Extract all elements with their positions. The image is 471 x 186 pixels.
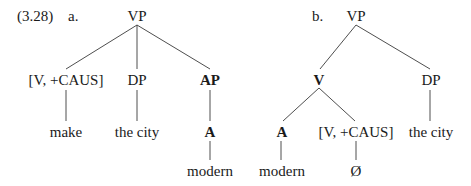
edge-a-vp-ap — [137, 25, 210, 69]
tree-a-node-ap: AP — [200, 73, 220, 88]
tree-a-node-v-caus: [V, +CAUS] — [29, 73, 104, 88]
tree-b-node-v-caus: [V, +CAUS] — [319, 125, 394, 140]
tree-a-node-dp: DP — [127, 73, 146, 88]
tree-b-label: b. — [312, 9, 323, 24]
tree-b-node-dp: DP — [421, 73, 440, 88]
tree-a-leaf-make: make — [50, 125, 82, 140]
edge-b-vp-v — [320, 25, 356, 69]
tree-a-label: a. — [68, 9, 78, 24]
tree-edges — [0, 0, 471, 186]
edge-a-vp-vcaus — [66, 25, 137, 69]
tree-a-node-a: A — [205, 125, 216, 140]
tree-a-leaf-modern: modern — [187, 164, 233, 179]
tree-b-leaf-the-city: the city — [409, 125, 454, 140]
tree-b-node-a: A — [277, 125, 288, 140]
tree-b-node-vp: VP — [346, 9, 365, 24]
example-number: (3.28) — [17, 9, 53, 24]
edge-b-v-vcaus — [319, 88, 355, 121]
tree-a-leaf-the-city: the city — [115, 125, 160, 140]
tree-b-leaf-null: Ø — [351, 164, 362, 179]
edge-b-v-a — [283, 88, 319, 121]
edge-b-vp-dp — [356, 25, 430, 69]
tree-b-leaf-modern: modern — [259, 164, 305, 179]
tree-a-node-vp: VP — [127, 9, 146, 24]
syntax-tree-figure: (3.28) a. b. VP [V, +CAUS] DP AP make th… — [0, 0, 471, 186]
tree-b-node-v: V — [314, 73, 325, 88]
